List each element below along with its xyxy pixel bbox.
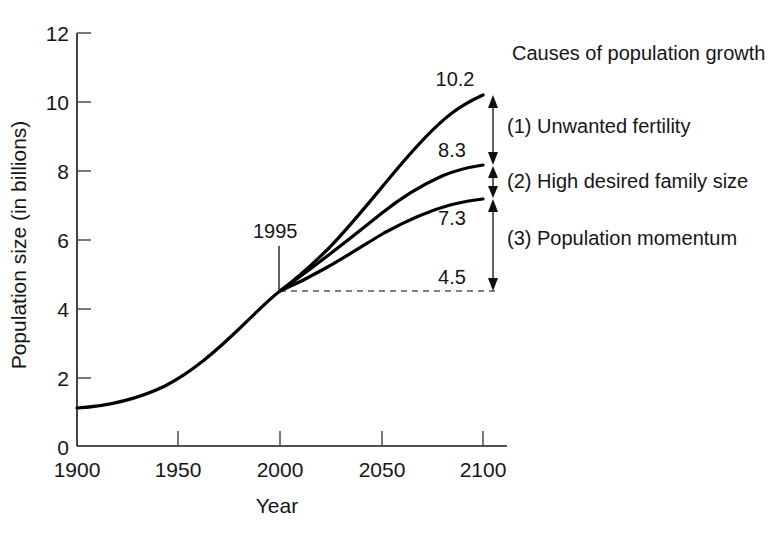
population-growth-chart: 12 10 8 6 4 2 0 1900 1950 2000 2050 2100… xyxy=(0,0,781,536)
y-axis-title: Population size (in billions) xyxy=(7,121,30,370)
legend-item-1-label: (1) Unwanted fertility xyxy=(507,115,690,137)
x-tick-label-2050: 2050 xyxy=(359,458,406,481)
y-tick-label-4: 4 xyxy=(57,298,69,321)
legend-item-2-label: (2) High desired family size xyxy=(507,170,748,192)
value-label-4-5: 4.5 xyxy=(438,266,466,288)
y-tick-label-2: 2 xyxy=(57,367,69,390)
curve-unwanted-fertility xyxy=(77,95,483,408)
x-tick-labels: 1900 1950 2000 2050 2100 xyxy=(54,458,507,481)
bracket-3-arrow-up-icon xyxy=(488,199,498,212)
y-tick-labels: 12 10 8 6 4 2 0 xyxy=(46,22,70,459)
y-tick-marks xyxy=(77,33,91,378)
y-tick-label-6: 6 xyxy=(57,229,69,252)
y-tick-label-0: 0 xyxy=(57,436,69,459)
x-tick-label-2100: 2100 xyxy=(460,458,507,481)
value-label-10-2: 10.2 xyxy=(436,68,475,90)
x-tick-label-1900: 1900 xyxy=(54,458,101,481)
x-axis-title: Year xyxy=(256,494,298,517)
bracket-3-arrow-down-icon xyxy=(488,278,498,291)
bracket-population-momentum: (3) Population momentum xyxy=(488,199,737,291)
x-tick-label-2000: 2000 xyxy=(257,458,304,481)
chart-canvas: 12 10 8 6 4 2 0 1900 1950 2000 2050 2100… xyxy=(0,0,781,536)
y-tick-label-12: 12 xyxy=(46,22,69,45)
branch-year-annotation: 1995 xyxy=(253,220,298,291)
bracket-2-arrow-down-icon xyxy=(488,186,498,198)
legend-item-3-label: (3) Population momentum xyxy=(507,227,737,249)
value-label-8-3: 8.3 xyxy=(438,139,466,161)
legend-title: Causes of population growth xyxy=(512,42,766,64)
bracket-2-arrow-up-icon xyxy=(488,166,498,178)
value-label-7-3: 7.3 xyxy=(438,207,466,229)
bracket-1-arrow-up-icon xyxy=(488,95,498,108)
bracket-1-arrow-down-icon xyxy=(488,152,498,165)
y-tick-label-8: 8 xyxy=(57,160,69,183)
branch-year-label: 1995 xyxy=(253,220,298,242)
x-tick-label-1950: 1950 xyxy=(155,458,202,481)
bracket-high-desired-family-size: (2) High desired family size xyxy=(488,166,748,198)
y-tick-label-10: 10 xyxy=(46,91,69,114)
x-tick-marks xyxy=(178,431,483,446)
bracket-unwanted-fertility: (1) Unwanted fertility xyxy=(488,95,690,165)
